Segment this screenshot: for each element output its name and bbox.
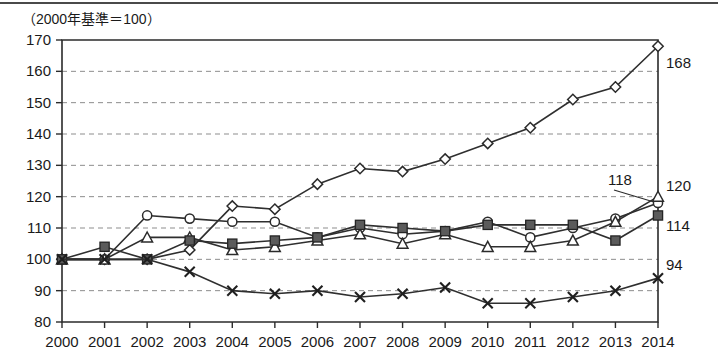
- x-tick-label: 2000: [45, 333, 78, 350]
- series-circle-leader-line: [614, 190, 654, 202]
- y-tick-label: 120: [26, 188, 51, 205]
- x-tick-label: 2005: [258, 333, 291, 350]
- plot-frame: [62, 40, 658, 322]
- chart-plot-area: 16811812011494 8090100110120130140150160…: [0, 0, 718, 364]
- x-tick-label: 2002: [130, 333, 163, 350]
- x-axis-ticks: [62, 322, 658, 328]
- series-circle-marker: [228, 217, 237, 226]
- series-square-marker: [398, 223, 407, 232]
- series-triangle-marker: [567, 235, 578, 245]
- series-group: [57, 41, 664, 308]
- series-square-marker: [185, 236, 194, 245]
- series-diamond-marker: [270, 204, 280, 214]
- series-cross-marker: [185, 267, 195, 277]
- y-tick-label: 160: [26, 62, 51, 79]
- series-square-marker: [270, 236, 279, 245]
- x-tick-label: 2006: [301, 333, 334, 350]
- series-cross-end-label: 94: [666, 256, 683, 273]
- series-square-marker: [441, 227, 450, 236]
- axes-group: [62, 40, 658, 322]
- series-circle-marker: [270, 217, 279, 226]
- y-axis-ticks: [56, 40, 62, 322]
- series-square-marker: [526, 220, 535, 229]
- x-tick-label: 2003: [173, 333, 206, 350]
- x-tick-label: 2014: [641, 333, 674, 350]
- x-tick-label: 2007: [343, 333, 376, 350]
- x-tick-labels: 2000200120022003200420052006200720082009…: [45, 333, 674, 350]
- series-circle-marker: [143, 211, 152, 220]
- series-square-marker: [313, 233, 322, 242]
- y-tick-labels: 8090100110120130140150160170: [26, 31, 51, 330]
- y-tick-label: 140: [26, 125, 51, 142]
- chart-page: （2000年基準＝100） 16811812011494 80901001101…: [0, 0, 718, 364]
- series-diamond-marker: [525, 123, 535, 133]
- series-triangle-end-label: 120: [666, 177, 691, 194]
- series-diamond-end-label: 168: [666, 54, 691, 71]
- series-circle-marker: [185, 214, 194, 223]
- y-tick-label: 130: [26, 156, 51, 173]
- series-triangle-marker: [653, 191, 664, 201]
- y-tick-label: 170: [26, 31, 51, 48]
- x-tick-label: 2011: [514, 333, 546, 350]
- series-diamond-marker: [568, 94, 578, 104]
- line-chart-svg: 16811812011494 8090100110120130140150160…: [0, 0, 718, 364]
- series-square-marker: [653, 211, 662, 220]
- series-square-marker: [568, 220, 577, 229]
- x-tick-label: 2010: [471, 333, 504, 350]
- series-diamond-marker: [440, 154, 450, 164]
- series-circle-end-label: 118: [608, 171, 632, 188]
- series-square-marker: [355, 220, 364, 229]
- series-square-marker: [100, 242, 109, 251]
- y-tick-label: 110: [27, 219, 51, 236]
- x-tick-label: 2008: [386, 333, 419, 350]
- x-tick-label: 2013: [599, 333, 632, 350]
- series-diamond-marker: [397, 166, 407, 176]
- x-tick-label: 2004: [216, 333, 249, 350]
- x-tick-label: 2012: [556, 333, 589, 350]
- y-tick-label: 150: [26, 94, 51, 111]
- series-diamond-marker: [483, 138, 493, 148]
- y-tick-label: 80: [34, 313, 51, 330]
- series-diamond-marker: [312, 179, 322, 189]
- series-diamond-marker: [355, 163, 365, 173]
- series-square-end-label: 114: [666, 217, 690, 234]
- y-tick-label: 100: [26, 250, 51, 267]
- x-tick-label: 2001: [88, 333, 121, 350]
- x-tick-label: 2009: [428, 333, 461, 350]
- y-tick-label: 90: [34, 282, 51, 299]
- series-square-marker: [228, 239, 237, 248]
- series-square-marker: [483, 220, 492, 229]
- series-square-marker: [611, 236, 620, 245]
